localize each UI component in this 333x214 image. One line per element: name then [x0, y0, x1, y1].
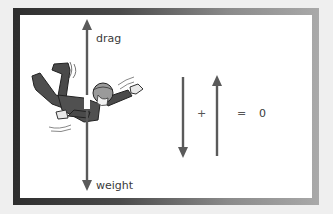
- down-vector-arrow: [178, 77, 188, 158]
- plus-sign: +: [197, 108, 206, 119]
- force-diagram: [0, 0, 333, 214]
- equals-sign: =: [237, 108, 246, 119]
- up-vector-arrow: [212, 75, 222, 156]
- drag-label: drag: [96, 33, 121, 44]
- weight-label: weight: [96, 180, 133, 191]
- result-value: 0: [259, 108, 266, 119]
- drag-arrow: [82, 19, 92, 96]
